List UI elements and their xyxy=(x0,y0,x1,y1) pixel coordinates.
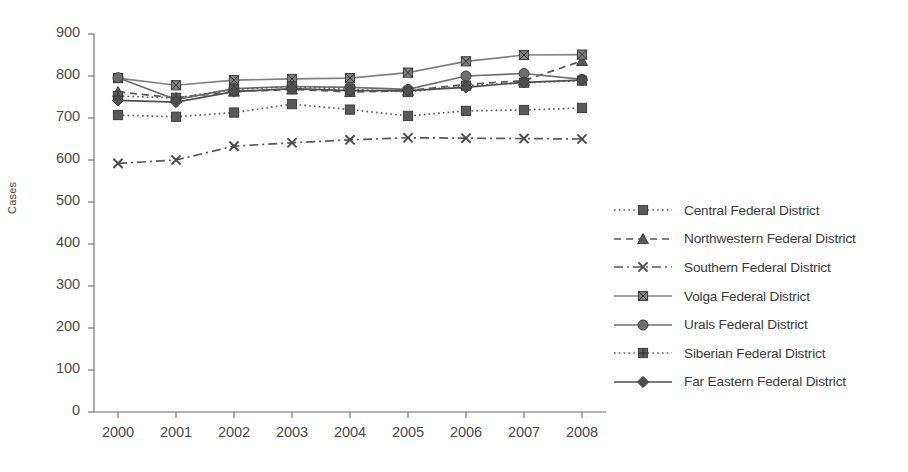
legend-item-0[interactable]: Central Federal District xyxy=(612,196,904,225)
y-axis-tick-label: 300 xyxy=(34,276,80,292)
series-2 xyxy=(113,133,586,168)
data-point-marker xyxy=(638,349,647,358)
data-point-marker xyxy=(403,111,412,120)
x-axis-tick-label: 2000 xyxy=(89,424,147,440)
data-point-marker xyxy=(461,71,471,81)
legend-key-square-x-icon xyxy=(612,285,674,307)
data-point-marker xyxy=(113,73,123,83)
x-axis-tick-label: 2004 xyxy=(321,424,379,440)
data-point-marker xyxy=(345,74,354,83)
data-point-marker xyxy=(461,106,470,115)
y-axis-tick-label: 100 xyxy=(34,360,80,376)
data-point-marker xyxy=(519,50,528,59)
legend-label: Volga Federal District xyxy=(674,289,810,304)
legend-key-x-icon xyxy=(612,256,674,278)
data-point-marker xyxy=(519,105,528,114)
data-point-marker xyxy=(287,100,296,109)
y-axis-tick-label: 700 xyxy=(34,108,80,124)
legend-key-circle-icon xyxy=(612,314,674,336)
data-point-marker xyxy=(638,320,648,330)
legend-item-2[interactable]: Southern Federal District xyxy=(612,253,904,282)
y-axis-tick-label: 200 xyxy=(34,318,80,334)
series-line xyxy=(118,138,582,164)
legend-key-triangle-icon xyxy=(612,228,674,250)
legend-label: Siberian Federal District xyxy=(674,346,825,361)
legend-label: Southern Federal District xyxy=(674,260,831,275)
x-axis-tick-label: 2007 xyxy=(495,424,553,440)
legend-key-grid-square-icon xyxy=(612,342,674,364)
y-axis-tick-label: 0 xyxy=(34,402,80,418)
legend-label: Urals Federal District xyxy=(674,317,808,332)
y-axis-tick-label: 900 xyxy=(34,24,80,40)
legend-item-5[interactable]: Siberian Federal District xyxy=(612,339,904,368)
legend-key-square-icon xyxy=(612,199,674,221)
data-point-marker xyxy=(637,376,648,387)
y-axis-tick-label: 800 xyxy=(34,66,80,82)
legend-item-1[interactable]: Northwestern Federal District xyxy=(612,225,904,254)
legend-key-diamond-icon xyxy=(612,371,674,393)
data-point-marker xyxy=(461,57,470,66)
legend-item-3[interactable]: Volga Federal District xyxy=(612,282,904,311)
data-point-marker xyxy=(577,103,586,112)
x-axis-tick-label: 2005 xyxy=(379,424,437,440)
y-axis-title: Cases xyxy=(6,134,18,214)
y-axis-tick-label: 600 xyxy=(34,150,80,166)
data-point-marker xyxy=(113,110,122,119)
data-point-marker xyxy=(229,108,238,117)
y-axis-tick-label: 400 xyxy=(34,234,80,250)
x-axis-tick-label: 2003 xyxy=(263,424,321,440)
data-point-marker xyxy=(345,105,354,114)
legend-item-6[interactable]: Far Eastern Federal District xyxy=(612,368,904,397)
x-axis-tick-label: 2001 xyxy=(147,424,205,440)
series-0 xyxy=(113,100,586,122)
data-point-marker xyxy=(171,112,180,121)
data-point-marker xyxy=(403,68,412,77)
x-axis-tick-label: 2006 xyxy=(437,424,495,440)
data-point-marker xyxy=(577,50,586,59)
legend-item-4[interactable]: Urals Federal District xyxy=(612,310,904,339)
chart-legend: Central Federal DistrictNorthwestern Fed… xyxy=(612,196,904,396)
data-point-marker xyxy=(171,81,180,90)
x-axis-tick-label: 2002 xyxy=(205,424,263,440)
data-point-marker xyxy=(638,291,647,300)
legend-label: Northwestern Federal District xyxy=(674,231,856,246)
legend-label: Far Eastern Federal District xyxy=(674,374,846,389)
data-point-marker xyxy=(638,206,647,215)
y-axis-tick-label: 500 xyxy=(34,192,80,208)
x-axis-tick-label: 2008 xyxy=(553,424,611,440)
line-chart: Cases 0100200300400500600700800900 20002… xyxy=(0,0,908,472)
legend-label: Central Federal District xyxy=(674,203,819,218)
